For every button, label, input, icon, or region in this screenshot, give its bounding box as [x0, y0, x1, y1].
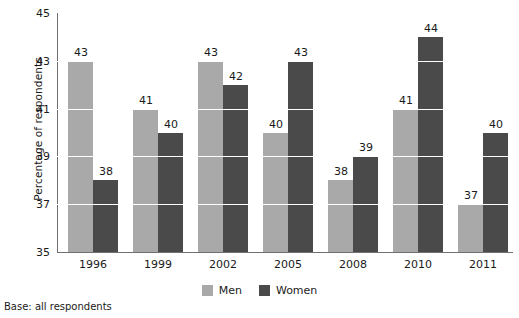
bar-label-men-2010: 41 [389, 95, 423, 106]
bar-label-women-2011: 40 [479, 119, 513, 130]
bar-label-women-1999: 40 [154, 119, 188, 130]
x-tick-1996: 1996 [63, 258, 123, 271]
y-tick-43: 43 [6, 54, 50, 67]
x-axis-tick-labels: 1996 1999 2002 2005 2008 2010 2011 [57, 258, 512, 276]
plot-area: 43 38 41 40 43 42 40 43 [57, 13, 512, 252]
bar-label-men-1996: 43 [64, 47, 98, 58]
bar-men-2010[interactable] [393, 109, 418, 252]
legend-swatch-women-icon [259, 285, 270, 296]
y-tick-41: 41 [6, 102, 50, 115]
y-axis-tick-labels: 45 43 41 39 37 35 [0, 0, 50, 318]
gridline-37 [57, 204, 512, 205]
bar-chart-figure: Percentage of respondents 45 43 41 39 37… [0, 0, 519, 318]
bar-women-2002[interactable] [223, 85, 248, 252]
bar-group-2002: 43 42 [198, 13, 248, 252]
y-tick-37: 37 [6, 198, 50, 211]
bar-group-2010: 41 44 [393, 13, 443, 252]
legend-swatch-men-icon [202, 285, 213, 296]
legend-label-men: Men [219, 284, 242, 297]
bar-group-1999: 41 40 [133, 13, 183, 252]
bar-label-women-1996: 38 [89, 166, 123, 177]
bar-women-1999[interactable] [158, 133, 183, 253]
bar-women-1996[interactable] [93, 180, 118, 252]
bar-men-1999[interactable] [133, 109, 158, 252]
y-tick-39: 39 [6, 150, 50, 163]
x-tick-2005: 2005 [258, 258, 318, 271]
bar-label-men-1999: 41 [129, 95, 163, 106]
bar-label-men-2008: 38 [324, 166, 358, 177]
x-tick-2010: 2010 [388, 258, 448, 271]
y-tick-45: 45 [6, 7, 50, 20]
bar-group-2008: 38 39 [328, 13, 378, 252]
bar-label-men-2005: 40 [259, 119, 293, 130]
bar-men-2011[interactable] [458, 204, 483, 252]
bars-layer: 43 38 41 40 43 42 40 43 [57, 13, 512, 252]
bar-label-women-2010: 44 [414, 23, 448, 34]
bar-men-2008[interactable] [328, 180, 353, 252]
legend-item-women[interactable]: Women [259, 284, 317, 297]
chart-footnote: Base: all respondents [4, 301, 112, 312]
bar-label-men-2011: 37 [454, 190, 488, 201]
bar-label-men-2002: 43 [194, 47, 228, 58]
x-tick-1999: 1999 [128, 258, 188, 271]
gridline-41 [57, 109, 512, 110]
bar-men-2005[interactable] [263, 133, 288, 253]
bar-group-2011: 37 40 [458, 13, 508, 252]
bar-group-1996: 43 38 [68, 13, 118, 252]
gridline-39 [57, 156, 512, 157]
x-axis-line [57, 252, 513, 253]
bar-label-women-2008: 39 [349, 142, 383, 153]
bar-women-2010[interactable] [418, 37, 443, 252]
y-tick-35: 35 [6, 246, 50, 259]
bar-label-women-2005: 43 [284, 47, 318, 58]
x-tick-2008: 2008 [323, 258, 383, 271]
x-tick-2011: 2011 [453, 258, 513, 271]
bar-group-2005: 40 43 [263, 13, 313, 252]
x-tick-2002: 2002 [193, 258, 253, 271]
chart-legend: Men Women [0, 284, 519, 297]
gridline-43 [57, 61, 512, 62]
legend-item-men[interactable]: Men [202, 284, 242, 297]
bar-label-women-2002: 42 [219, 71, 253, 82]
legend-label-women: Women [276, 284, 317, 297]
